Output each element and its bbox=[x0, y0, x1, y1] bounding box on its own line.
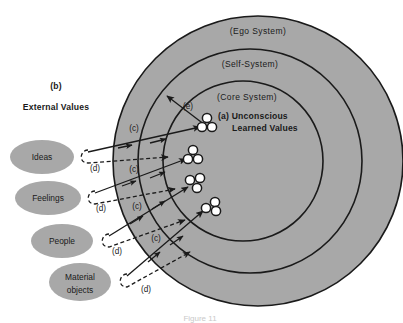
external-value-material-label-line1: Material bbox=[65, 272, 95, 282]
cluster-2-node-top bbox=[188, 145, 197, 154]
figure-caption: Figure 11 bbox=[183, 314, 217, 323]
external-values-title: External Values bbox=[23, 102, 90, 112]
cluster-4-node-top bbox=[210, 197, 219, 206]
cluster-3-node-top bbox=[195, 173, 204, 182]
ego-system-label: (Ego System) bbox=[230, 26, 286, 36]
external-value-material-label-line2: objects bbox=[67, 285, 94, 295]
d-tag-2: (d) bbox=[96, 204, 106, 213]
external-value-material-objects[interactable] bbox=[49, 263, 111, 301]
external-value-ideas-label: Ideas bbox=[32, 152, 53, 162]
cluster-3-node-left bbox=[185, 175, 194, 184]
d-tag-3: (d) bbox=[112, 247, 122, 256]
unconscious-values-label-line1: (a) Unconscious bbox=[218, 111, 288, 121]
systems-diagram: (Ego System) (Self-System) (Core System)… bbox=[0, 0, 403, 323]
c-tag-2: (c) bbox=[129, 165, 139, 174]
external-value-people-label: People bbox=[49, 236, 75, 246]
core-system-label: (Core System) bbox=[217, 92, 277, 102]
cluster-2-node-right bbox=[193, 154, 202, 163]
d-tag-4: (d) bbox=[141, 285, 151, 294]
external-value-feelings-label: Feelings bbox=[32, 193, 64, 203]
c-tag-1: (c) bbox=[129, 124, 139, 133]
cluster-1-node-right bbox=[207, 122, 216, 131]
cluster-1-node-top bbox=[202, 113, 211, 122]
cluster-4-node-right bbox=[211, 206, 220, 215]
e-tag: (e) bbox=[183, 102, 193, 111]
cluster-1-node-left bbox=[197, 122, 206, 131]
cluster-3-node-right bbox=[192, 183, 201, 192]
c-tag-3: (c) bbox=[132, 202, 142, 211]
external-values-tag: (b) bbox=[50, 81, 62, 91]
d-tag-1: (d) bbox=[90, 164, 100, 173]
c-tag-4: (c) bbox=[151, 234, 161, 243]
cluster-4-node-left bbox=[201, 203, 210, 212]
cluster-2-node-left bbox=[183, 154, 192, 163]
unconscious-values-label-line2: Learned Values bbox=[232, 123, 298, 133]
self-system-label: (Self-System) bbox=[222, 59, 279, 69]
